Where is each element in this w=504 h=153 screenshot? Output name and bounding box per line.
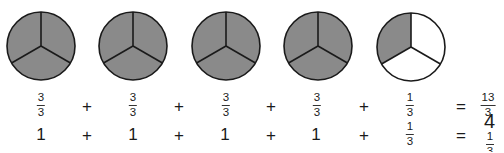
- numerator: 13: [481, 92, 496, 104]
- whole-term-2: 1: [128, 126, 137, 143]
- fraction-pies: [0, 0, 504, 90]
- numerator: 1: [486, 131, 494, 143]
- term-2: 33: [129, 92, 137, 118]
- plus-operator: +: [174, 127, 184, 144]
- result-mixed-number: 413: [483, 111, 497, 152]
- plus-operator: +: [82, 127, 92, 144]
- plus-operator: +: [82, 98, 92, 115]
- term-4: 33: [313, 92, 321, 118]
- term-1: 33: [37, 92, 45, 118]
- plus-operator: +: [359, 127, 369, 144]
- numerator: 1: [406, 92, 414, 104]
- whole-term-1: 1: [36, 126, 45, 143]
- plus-operator: +: [266, 127, 276, 144]
- mixed-whole-part: 4: [484, 110, 495, 132]
- numerator: 3: [222, 92, 230, 104]
- pie-circle-5: [377, 13, 445, 81]
- term-3: 33: [222, 92, 230, 118]
- pie-circle-3: [192, 12, 260, 80]
- plus-operator: +: [174, 98, 184, 115]
- numerator: 3: [129, 92, 137, 104]
- term-5: 13: [406, 92, 414, 118]
- denominator: 3: [487, 146, 493, 153]
- term-5-fraction: 13: [406, 121, 414, 147]
- denominator: 3: [223, 107, 229, 119]
- plus-operator: +: [359, 98, 369, 115]
- whole-term-3: 1: [220, 126, 229, 143]
- equals-sign: =: [456, 98, 466, 115]
- numerator: 1: [406, 121, 414, 133]
- numerator: 3: [313, 92, 321, 104]
- equals-sign: =: [456, 127, 466, 144]
- plus-operator: +: [266, 98, 276, 115]
- pie-circle-1: [7, 12, 75, 80]
- denominator: 3: [130, 107, 136, 119]
- pie-circle-4: [284, 12, 352, 80]
- numerator: 3: [37, 92, 45, 104]
- whole-term-4: 1: [311, 126, 320, 143]
- denominator: 3: [407, 136, 413, 148]
- denominator: 3: [38, 107, 44, 119]
- denominator: 3: [407, 107, 413, 119]
- pie-circle-2: [99, 12, 167, 80]
- denominator: 3: [314, 107, 320, 119]
